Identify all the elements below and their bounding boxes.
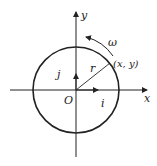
- origin-label: O: [64, 94, 73, 107]
- unit-vector-i-label: i: [101, 97, 105, 110]
- point-label: (x, y): [113, 58, 139, 69]
- unit-vector-j-label: j: [54, 68, 61, 81]
- circular-motion-diagram: y x O j i r (x, y) ω: [0, 0, 157, 166]
- radius-label: r: [90, 62, 96, 75]
- y-axis-label: y: [80, 9, 88, 22]
- omega-label: ω: [108, 36, 117, 49]
- x-axis-label: x: [144, 92, 151, 105]
